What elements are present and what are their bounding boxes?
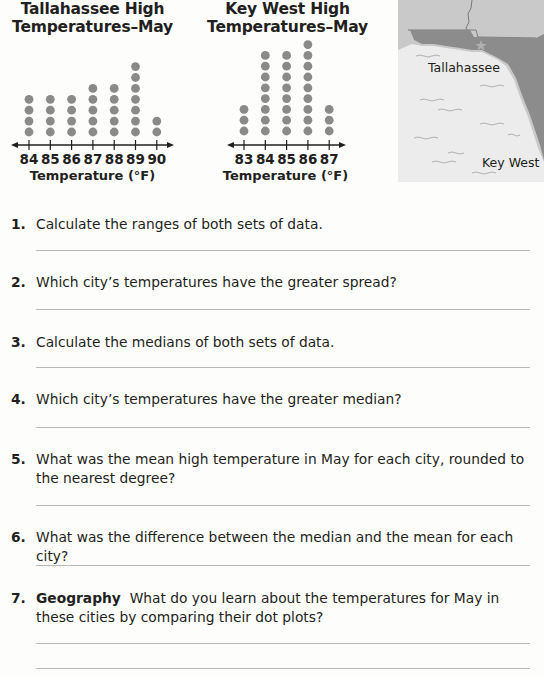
- data-dot: [110, 106, 119, 115]
- data-dot: [89, 117, 98, 126]
- tick-label: 90: [147, 151, 166, 167]
- tick-label: 85: [277, 151, 296, 167]
- data-dot: [25, 95, 34, 104]
- data-dot: [89, 84, 98, 93]
- data-dot: [325, 116, 334, 125]
- data-dot: [89, 95, 98, 104]
- map-label-tallahassee: Tallahassee: [428, 60, 500, 75]
- question-number: 3.: [11, 333, 26, 352]
- data-dot: [152, 128, 161, 137]
- question-number: 5.: [11, 450, 26, 469]
- data-dot: [282, 105, 291, 114]
- data-dot: [110, 84, 119, 93]
- tick-label: 83: [235, 151, 254, 167]
- tallahassee-dot-plot: Tallahassee High Temperatures–May 848586…: [0, 0, 185, 190]
- data-dot: [131, 128, 140, 137]
- data-dot: [304, 105, 313, 114]
- answer-line-5[interactable]: [36, 505, 530, 506]
- question-text: Which city’s temperatures have the great…: [36, 390, 536, 409]
- data-dot: [261, 62, 270, 71]
- answer-line-6[interactable]: [36, 565, 530, 566]
- question-text: Calculate the ranges of both sets of dat…: [36, 215, 536, 234]
- data-dot: [46, 128, 55, 137]
- data-dot: [240, 127, 249, 136]
- data-dot: [261, 116, 270, 125]
- data-dot: [110, 95, 119, 104]
- data-dot: [261, 73, 270, 82]
- question-number: 4.: [11, 390, 26, 409]
- question-text: What was the mean high temperature in Ma…: [36, 450, 536, 488]
- tick-label: 86: [299, 151, 318, 167]
- data-dot: [304, 116, 313, 125]
- data-dot: [110, 128, 119, 137]
- data-dot: [282, 73, 291, 82]
- data-dot: [325, 105, 334, 114]
- tick-label: 86: [62, 151, 81, 167]
- question-number: 6.: [11, 528, 26, 547]
- data-dot: [67, 106, 76, 115]
- question-text: Which city’s temperatures have the great…: [36, 273, 536, 292]
- answer-line-2[interactable]: [36, 309, 530, 310]
- question-text: Geography What do you learn about the te…: [36, 589, 536, 627]
- question-text: Calculate the medians of both sets of da…: [36, 333, 536, 352]
- data-dot: [304, 94, 313, 103]
- tick-label: 85: [41, 151, 60, 167]
- data-dot: [67, 128, 76, 137]
- question-keyword: Geography: [36, 590, 121, 606]
- arrow-right-icon: [339, 142, 346, 148]
- data-dot: [25, 117, 34, 126]
- answer-line-7b[interactable]: [36, 668, 530, 669]
- data-dot: [304, 127, 313, 136]
- answer-line-7a[interactable]: [36, 643, 530, 644]
- data-dot: [304, 73, 313, 82]
- keywest-dot-plot: Key West High Temperatures–May 838485868…: [200, 0, 375, 190]
- arrow-left-icon: [227, 142, 234, 148]
- question-number: 7.: [11, 589, 26, 608]
- data-dot: [282, 51, 291, 60]
- data-dot: [325, 127, 334, 136]
- data-dot: [304, 40, 313, 49]
- tallahassee-axis-label: Temperature (°F): [0, 168, 185, 183]
- data-dot: [67, 95, 76, 104]
- data-dot: [261, 94, 270, 103]
- data-dot: [46, 117, 55, 126]
- keywest-axis-label: Temperature (°F): [198, 168, 373, 183]
- data-dot: [282, 83, 291, 92]
- arrow-left-icon: [11, 142, 18, 148]
- data-dot: [304, 51, 313, 60]
- tick-label: 87: [320, 151, 339, 167]
- data-dot: [282, 116, 291, 125]
- data-dot: [282, 94, 291, 103]
- tick-label: 84: [256, 151, 275, 167]
- map-label-keywest: Key West: [482, 155, 539, 170]
- data-dot: [89, 106, 98, 115]
- answer-line-3[interactable]: [36, 367, 530, 368]
- data-dot: [282, 62, 291, 71]
- answer-line-4[interactable]: [36, 427, 530, 428]
- question-number: 2.: [11, 273, 26, 292]
- data-dot: [131, 117, 140, 126]
- data-dot: [46, 106, 55, 115]
- tick-label: 87: [84, 151, 103, 167]
- data-dot: [282, 127, 291, 136]
- arrow-right-icon: [167, 142, 174, 148]
- data-dot: [89, 128, 98, 137]
- data-dot: [304, 83, 313, 92]
- data-dot: [304, 62, 313, 71]
- data-dot: [131, 62, 140, 71]
- answer-line-1[interactable]: [36, 250, 530, 251]
- data-dot: [25, 128, 34, 137]
- data-dot: [46, 95, 55, 104]
- data-dot: [261, 51, 270, 60]
- data-dot: [131, 95, 140, 104]
- keywest-plot-area: 8384858687: [200, 0, 375, 170]
- question-text: What was the difference between the medi…: [36, 528, 536, 566]
- tick-label: 88: [105, 151, 124, 167]
- data-dot: [131, 84, 140, 93]
- question-number: 1.: [11, 215, 26, 234]
- data-dot: [110, 117, 119, 126]
- data-dot: [67, 117, 76, 126]
- data-dot: [131, 73, 140, 82]
- data-dot: [261, 127, 270, 136]
- tallahassee-plot-area: 84858687888990: [0, 0, 185, 170]
